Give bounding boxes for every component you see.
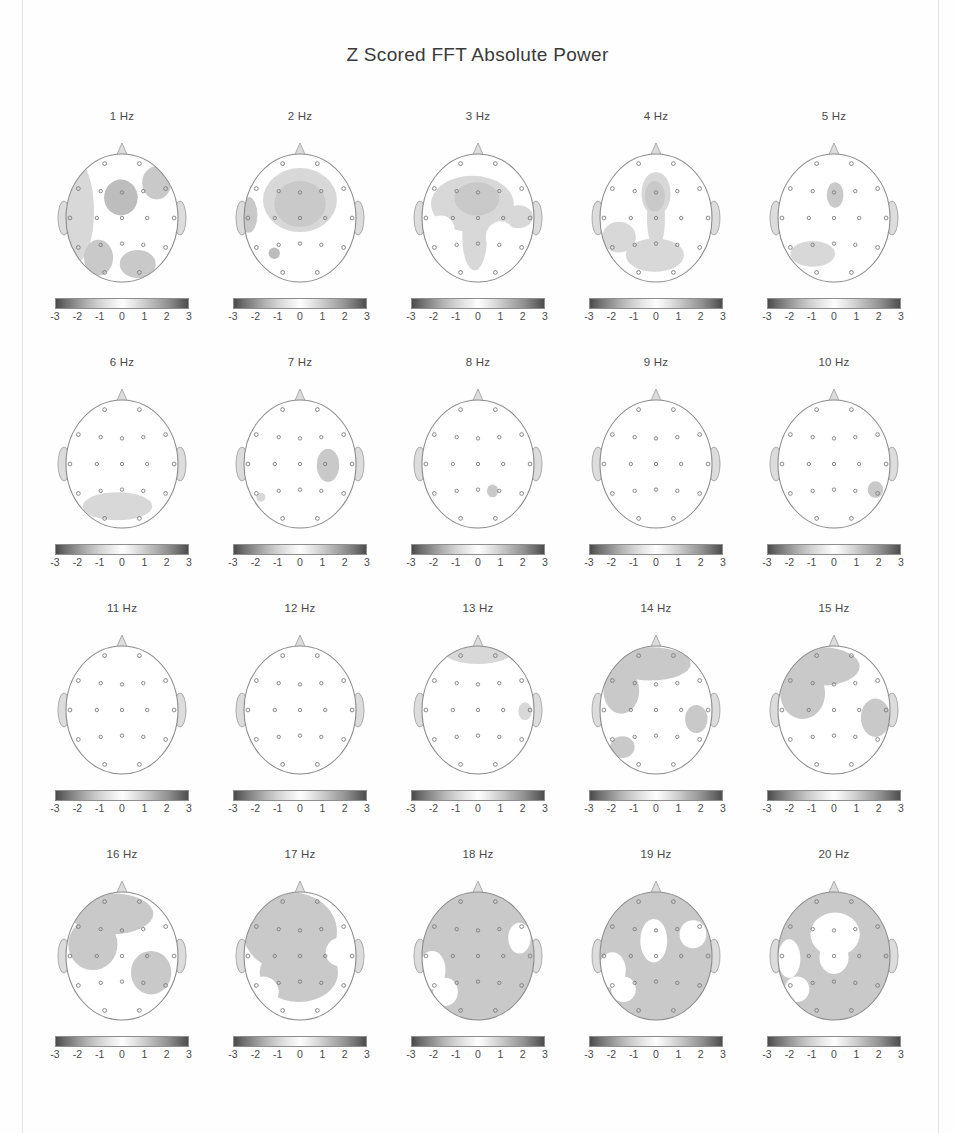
colorbar-tick-label: 2 [520,310,526,322]
colorbar-tick-label: -1 [451,556,460,568]
topomap-panel: 16 Hz-3-2-10123 [33,846,211,1092]
topomap-frequency-label: 2 Hz [211,110,389,122]
colorbar-tick-label: -1 [629,1048,638,1060]
colorbar-tick-label: 0 [119,310,125,322]
colorbar: -3-2-10123 [767,790,901,816]
colorbar-tick-label: 0 [831,556,837,568]
topomap-head [47,126,197,294]
colorbar-tick-label: -2 [607,310,616,322]
zscore-region [433,978,458,1006]
colorbar-tick-label: 2 [342,310,348,322]
colorbar-tick-label: 2 [164,1048,170,1060]
colorbar-tick-label: -2 [785,310,794,322]
colorbar-gradient [589,790,723,801]
topomap-frequency-label: 3 Hz [389,110,567,122]
head-map [581,372,731,540]
zscore-region [83,492,152,520]
head-map [47,864,197,1032]
topomap-frequency-label: 5 Hz [745,110,923,122]
zscore-region [269,247,280,259]
colorbar-tick-label: 1 [675,1048,681,1060]
topomap-frequency-label: 16 Hz [33,848,211,860]
colorbar-gradient [411,298,545,309]
colorbar: -3-2-10123 [589,298,723,324]
colorbar-tick-label: -2 [429,802,438,814]
colorbar-ticks: -3-2-10123 [411,556,545,570]
scalp-field [66,646,178,774]
scan-edge-right [938,0,939,1133]
colorbar-tick-label: -2 [785,556,794,568]
colorbar-gradient [55,298,189,309]
colorbar-tick-label: -2 [251,1048,260,1060]
colorbar-tick-label: 1 [319,556,325,568]
zscore-region [680,920,707,948]
colorbar: -3-2-10123 [55,1036,189,1062]
colorbar-tick-label: -3 [406,802,415,814]
colorbar-tick-label: -2 [607,802,616,814]
colorbar-tick-label: 1 [141,1048,147,1060]
colorbar-tick-label: -2 [607,556,616,568]
colorbar-tick-label: 0 [119,802,125,814]
head-map [403,372,553,540]
topomap-panel: 9 Hz-3-2-10123 [567,354,745,600]
colorbar-tick-label: -2 [429,556,438,568]
head-map [225,618,375,786]
colorbar-tick-label: -1 [629,556,638,568]
colorbar-tick-label: 3 [364,1048,370,1060]
topomap-head [759,372,909,540]
scalp-field [600,400,712,528]
head-map [759,372,909,540]
colorbar-ticks: -3-2-10123 [589,310,723,324]
topomap-head [581,372,731,540]
colorbar-ticks: -3-2-10123 [55,310,189,324]
topomap-head [47,372,197,540]
colorbar-tick-label: 1 [141,556,147,568]
colorbar-tick-label: -1 [95,1048,104,1060]
colorbar-gradient [767,790,901,801]
colorbar-tick-label: -3 [406,556,415,568]
colorbar-tick-label: 2 [342,1048,348,1060]
colorbar-gradient [55,790,189,801]
colorbar-tick-label: -3 [228,556,237,568]
topomap-panel: 6 Hz-3-2-10123 [33,354,211,600]
colorbar-tick-label: 2 [520,802,526,814]
colorbar-ticks: -3-2-10123 [411,802,545,816]
colorbar-tick-label: 2 [876,556,882,568]
colorbar-tick-label: -3 [406,310,415,322]
zscore-field [487,484,498,497]
colorbar-tick-label: 1 [853,310,859,322]
colorbar-tick-label: 1 [497,310,503,322]
colorbar-tick-label: 3 [364,556,370,568]
colorbar-tick-label: 0 [475,1048,481,1060]
colorbar-tick-label: -3 [762,556,771,568]
colorbar-tick-label: 3 [364,802,370,814]
colorbar-tick-label: -1 [807,310,816,322]
colorbar-tick-label: -2 [429,310,438,322]
head-map [759,864,909,1032]
colorbar-tick-label: -3 [50,310,59,322]
colorbar-tick-label: 1 [853,556,859,568]
head-map [759,618,909,786]
head-map [225,372,375,540]
colorbar-tick-label: 3 [186,310,192,322]
colorbar-tick-label: -3 [228,310,237,322]
colorbar-gradient [233,544,367,555]
colorbar-tick-label: 0 [475,556,481,568]
topomap-head [759,864,909,1032]
head-map [47,126,197,294]
colorbar-tick-label: 2 [698,310,704,322]
topomap-head [225,864,375,1032]
colorbar: -3-2-10123 [767,298,901,324]
zscore-region [454,182,499,215]
scalp-field [244,400,356,528]
colorbar-tick-label: -1 [273,310,282,322]
topomap-panel: 2 Hz-3-2-10123 [211,108,389,354]
colorbar-tick-label: 3 [898,556,904,568]
colorbar-tick-label: 1 [497,1048,503,1060]
colorbar-tick-label: -2 [73,556,82,568]
colorbar: -3-2-10123 [589,1036,723,1062]
colorbar-tick-label: -1 [273,802,282,814]
colorbar-ticks: -3-2-10123 [767,802,901,816]
topomap-head [403,372,553,540]
colorbar-tick-label: -2 [429,1048,438,1060]
